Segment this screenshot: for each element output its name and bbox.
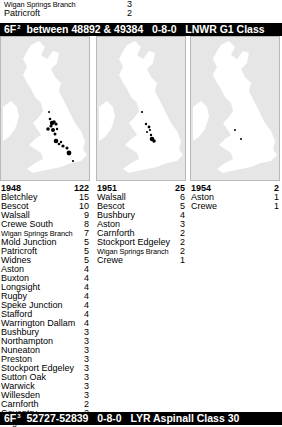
shed-name: Stockport Edgeley [97, 238, 170, 247]
allocation-list: 1948 122 Bletchley15Bescot10Walsall9Crew… [0, 184, 90, 427]
shed-location-dot [46, 127, 50, 131]
britain-map [190, 36, 280, 181]
list-item: Crewe South8 [0, 220, 90, 229]
shed-location-dot [72, 160, 74, 162]
class-code: 6F [4, 23, 16, 35]
shed-location-dot [240, 138, 242, 140]
list-item: Stockport Edgeley2 [96, 238, 186, 247]
shed-location-dot [54, 133, 57, 136]
class-code: 6F [4, 412, 16, 424]
panel-1954: 1954 2 Aston1Crewe1 [190, 36, 280, 211]
shed-location-dot [149, 129, 151, 131]
shed-location-dot [148, 126, 151, 129]
shed-count: 1 [274, 202, 279, 211]
shed-count: 2 [120, 9, 132, 18]
allocation-list: 1954 2 Aston1Crewe1 [190, 184, 280, 211]
shed-location-dot [56, 128, 58, 130]
class-superscript: 3 [17, 413, 20, 419]
shed-location-dot [234, 129, 236, 131]
shed-name: Crewe [191, 202, 217, 211]
section-header: 6F2 between 48892 & 49384 0-8-0 LNWR G1 … [0, 23, 282, 36]
shed-count: 1 [180, 256, 185, 265]
list-item: Crewe1 [190, 202, 280, 211]
map-graphic [1, 37, 89, 180]
shed-location-dot [145, 123, 147, 125]
shed-location-dot [51, 128, 55, 132]
britain-map [0, 36, 90, 181]
allocation-list: 1951 25 Walsall6Bescot5Bushbury4Aston3Ca… [96, 184, 186, 265]
shed-location-dot [49, 124, 52, 127]
shed-location-dot [146, 131, 148, 133]
shed-name: Crewe South [1, 220, 53, 229]
shed-location-dot [152, 139, 156, 143]
map-graphic [97, 37, 185, 180]
shed-location-dot [67, 151, 72, 156]
shed-name: Patricroft [4, 9, 40, 18]
list-item: Crewe1 [96, 256, 186, 265]
shed-location-dot [60, 141, 62, 143]
britain-map [96, 36, 186, 181]
shed-location-dot [54, 122, 57, 125]
section-title: between 48892 & 49384 0-8-0 LNWR G1 Clas… [24, 23, 265, 35]
map-graphic [191, 37, 279, 180]
shed-location-dot [58, 143, 61, 146]
shed-location-dot [49, 118, 52, 121]
shed-location-dot [54, 139, 59, 144]
next-section-header: 6F3 52727-52839 0-8-0 LYR Aspinall Class… [0, 412, 282, 425]
shed-location-dot [66, 147, 69, 150]
shed-location-dot [61, 144, 64, 147]
list-item: Patricroft 2 [4, 9, 132, 18]
shed-location-dot [150, 134, 152, 136]
shed-location-dot [141, 111, 143, 113]
panel-1948: 1948 122 Bletchley15Bescot10Walsall9Crew… [0, 36, 90, 427]
section-title: 52727-52839 0-8-0 LYR Aspinall Class 30 [24, 412, 240, 424]
class-superscript: 2 [17, 24, 20, 30]
panel-1951: 1951 25 Walsall6Bescot5Bushbury4Aston3Ca… [96, 36, 186, 265]
shed-name: Crewe [97, 256, 123, 265]
shed-location-dot [48, 111, 50, 113]
previous-section-tail: Wigan Springs Branch 3 Patricroft 2 [4, 0, 132, 18]
